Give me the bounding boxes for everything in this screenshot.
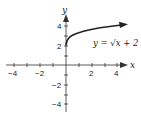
x-tick-neg4: −4 — [8, 69, 18, 78]
y-tick-4: 4 — [57, 22, 62, 31]
x-axis-label: x — [130, 60, 135, 70]
x-axis-arrow-icon — [120, 62, 128, 68]
curve-arrow-icon — [119, 22, 128, 28]
x-tick-neg2: −2 — [35, 69, 45, 78]
x-tick-4: 4 — [114, 69, 119, 78]
y-axis: y 4 2 −2 −4 — [52, 5, 69, 112]
y-tick-2: 2 — [57, 42, 62, 51]
y-tick-neg2: −2 — [52, 81, 62, 90]
y-axis-label: y — [61, 5, 68, 15]
graph: x −4 −2 2 4 y 4 2 −2 −4 y = √x + 2 — [0, 0, 141, 121]
x-tick-2: 2 — [89, 69, 94, 78]
y-axis-arrow-icon — [63, 14, 69, 22]
y-tick-neg4: −4 — [52, 100, 62, 109]
equation-label: y = √x + 2 — [92, 38, 138, 48]
x-axis: x −4 −2 2 4 — [6, 60, 135, 78]
